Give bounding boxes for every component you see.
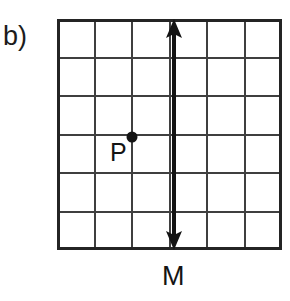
figure-container: b) [0, 0, 290, 301]
figure-overlay [57, 19, 282, 250]
point-p-label: P [110, 140, 127, 165]
part-label-b: b) [3, 20, 27, 52]
point-p-dot [127, 132, 138, 143]
line-m-label: M [162, 261, 185, 291]
line-m [166, 19, 182, 250]
grid-container [57, 19, 282, 250]
